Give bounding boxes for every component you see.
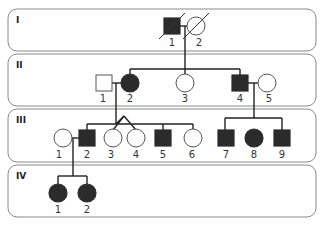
generation-label-i: I: [16, 15, 19, 25]
svg-text:2: 2: [196, 37, 202, 48]
svg-text:6: 6: [189, 149, 195, 160]
svg-text:2: 2: [84, 204, 90, 215]
svg-text:4: 4: [237, 93, 243, 104]
generation-label-iv: IV: [16, 171, 26, 181]
svg-text:1: 1: [56, 149, 62, 160]
pedigree-chart: I II III IV: [0, 0, 325, 225]
svg-text:3: 3: [182, 93, 188, 104]
generation-label-iii: III: [16, 115, 26, 125]
svg-text:3: 3: [108, 149, 114, 160]
svg-text:1: 1: [100, 93, 106, 104]
svg-text:9: 9: [279, 149, 285, 160]
svg-text:5: 5: [266, 93, 272, 104]
svg-text:2: 2: [84, 149, 90, 160]
generation-band-i: [8, 9, 316, 51]
generation-label-ii: II: [16, 60, 23, 70]
svg-text:5: 5: [160, 149, 166, 160]
svg-text:2: 2: [127, 93, 133, 104]
svg-text:7: 7: [223, 149, 229, 160]
svg-text:1: 1: [55, 204, 61, 215]
svg-text:8: 8: [251, 149, 257, 160]
svg-text:1: 1: [169, 37, 175, 48]
svg-text:4: 4: [133, 149, 139, 160]
